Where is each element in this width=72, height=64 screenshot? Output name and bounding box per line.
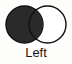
figure-caption: Left <box>0 45 72 60</box>
venn-diagram-figure: Left <box>0 0 72 64</box>
